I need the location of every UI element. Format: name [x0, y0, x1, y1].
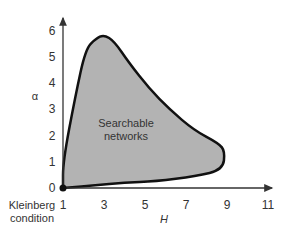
- searchable-region: [63, 36, 224, 188]
- kleinberg-point: [60, 185, 67, 192]
- y-tick: 3: [49, 102, 56, 116]
- y-tick: 2: [49, 129, 56, 143]
- x-tick-labels: 1357911: [60, 198, 275, 212]
- x-axis-label: H: [160, 213, 168, 225]
- y-tick: 5: [49, 50, 56, 64]
- kleinberg-label-line1: Kleinberg: [9, 199, 55, 211]
- chart-canvas: 0123456 1357911 α H Searchable networks …: [0, 0, 304, 235]
- y-tick-labels: 0123456: [49, 24, 56, 195]
- x-tick: 11: [262, 198, 275, 212]
- x-tick: 1: [60, 198, 67, 212]
- region-label-line2: networks: [104, 130, 149, 142]
- y-tick: 0: [49, 181, 56, 195]
- x-tick: 5: [142, 198, 149, 212]
- x-tick: 7: [183, 198, 190, 212]
- x-tick: 3: [101, 198, 108, 212]
- region-label-line1: Searchable: [98, 117, 154, 129]
- kleinberg-label-line2: condition: [10, 212, 54, 224]
- x-tick: 9: [224, 198, 231, 212]
- y-tick: 1: [49, 155, 56, 169]
- y-axis-label: α: [32, 90, 39, 102]
- y-tick: 6: [49, 24, 56, 38]
- y-tick: 4: [49, 76, 56, 90]
